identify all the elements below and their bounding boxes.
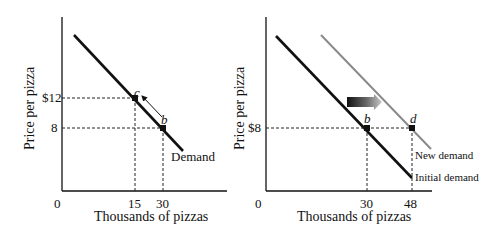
left-tick-12: $12: [42, 91, 62, 104]
right-x-axis-label: Thousands of pizzas: [297, 210, 411, 224]
initial-demand-label: Initial demand: [415, 172, 479, 183]
point-d-label: d: [410, 112, 417, 125]
demand-curve: [74, 35, 183, 151]
left-tick-8: 8: [51, 121, 58, 134]
right-origin: 0: [255, 197, 262, 210]
shift-arrow: [347, 94, 382, 110]
demand-label: Demand: [171, 150, 215, 163]
left-y-axis-label: Price per pizza: [22, 67, 38, 150]
point-c-label: c: [134, 86, 140, 99]
right-panel: [266, 17, 432, 191]
movement-arrow: [142, 96, 162, 117]
new-demand-curve: [321, 35, 431, 149]
point-b-left-label: b: [161, 113, 168, 126]
left-origin: 0: [54, 197, 61, 210]
new-demand-label: New demand: [415, 150, 473, 161]
left-panel: [62, 17, 227, 191]
right-tick-8: $8: [248, 121, 261, 134]
point-b-right-label: b: [364, 112, 371, 125]
right-y-axis-label: Price per pizza: [232, 67, 248, 150]
left-x-axis-label: Thousands of pizzas: [94, 210, 208, 224]
